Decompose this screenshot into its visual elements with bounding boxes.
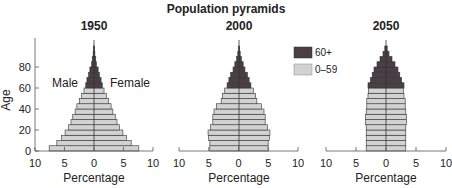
chart-canvas: 19501050510Percentage20001050510Percenta…: [0, 0, 452, 188]
panel-title-1950: 1950: [81, 19, 108, 33]
y-axis-label: Age: [0, 89, 13, 111]
x-tick-label: 5: [120, 157, 126, 169]
y-tick-label: 40: [19, 103, 31, 115]
x-axis-label: Percentage: [355, 171, 417, 185]
y-tick-label: 60: [19, 82, 31, 94]
y-tick-label: 80: [19, 61, 31, 73]
y-tick-label: 0: [25, 145, 31, 157]
female-label: Female: [110, 76, 150, 90]
panel-title-2000: 2000: [226, 19, 253, 33]
x-tick-label: 10: [147, 157, 159, 169]
legend-label-60plus: 60+: [315, 47, 332, 58]
y-tick-label: 20: [19, 124, 31, 136]
x-tick-label: 10: [320, 157, 332, 169]
x-tick-label: 5: [265, 157, 271, 169]
legend-swatch-0-59: [294, 64, 312, 75]
x-tick-label: 10: [29, 157, 41, 169]
x-tick-label: 5: [206, 157, 212, 169]
x-tick-label: 10: [440, 157, 452, 169]
x-tick-label: 0: [91, 157, 97, 169]
legend-label-0-59: 0–59: [315, 64, 338, 75]
legend-swatch-60plus: [294, 47, 312, 58]
male-label: Male: [52, 76, 78, 90]
x-tick-label: 5: [353, 157, 359, 169]
x-axis-label: Percentage: [208, 171, 270, 185]
x-axis-label: Percentage: [63, 171, 125, 185]
x-tick-label: 5: [413, 157, 419, 169]
x-tick-label: 0: [235, 157, 241, 169]
panel-title-2050: 2050: [373, 19, 400, 33]
x-tick-label: 0: [383, 157, 389, 169]
x-tick-label: 10: [292, 157, 304, 169]
x-tick-label: 5: [61, 157, 67, 169]
population-pyramids-figure: Population pyramids 19501050510Percentag…: [0, 0, 452, 188]
x-tick-label: 10: [173, 157, 185, 169]
